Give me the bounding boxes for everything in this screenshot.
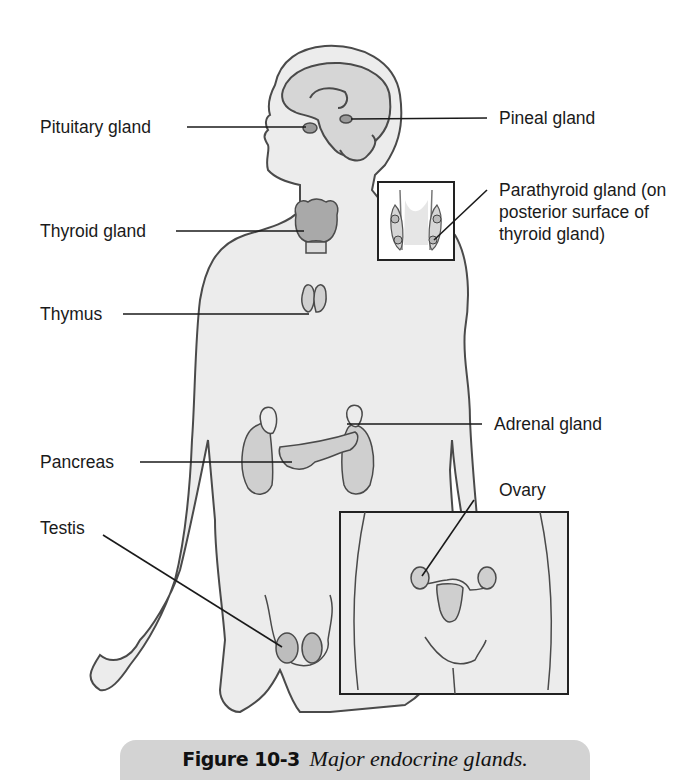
label-thyroid-gland: Thyroid gland [40, 220, 146, 242]
pituitary-gland-shape [303, 123, 317, 133]
ovary-inset [340, 512, 568, 694]
figure-caption: Figure 10-3 Major endocrine glands. [120, 746, 590, 772]
caption-figure-number: Figure 10-3 [182, 748, 300, 770]
caption-text: Major endocrine glands. [310, 746, 528, 771]
label-thymus: Thymus [40, 303, 102, 325]
label-pineal-gland: Pineal gland [499, 107, 595, 129]
label-parathyroid-gland: Parathyroid gland (on posterior surface … [499, 179, 669, 245]
caption-bar: Figure 10-3 Major endocrine glands. [120, 740, 590, 780]
label-pancreas: Pancreas [40, 451, 114, 473]
label-ovary: Ovary [499, 479, 546, 501]
label-pituitary-gland: Pituitary gland [40, 116, 151, 138]
parathyroid-inset [378, 182, 454, 260]
label-adrenal-gland: Adrenal gland [494, 413, 602, 435]
label-testis: Testis [40, 517, 85, 539]
pineal-gland-shape [340, 115, 352, 123]
